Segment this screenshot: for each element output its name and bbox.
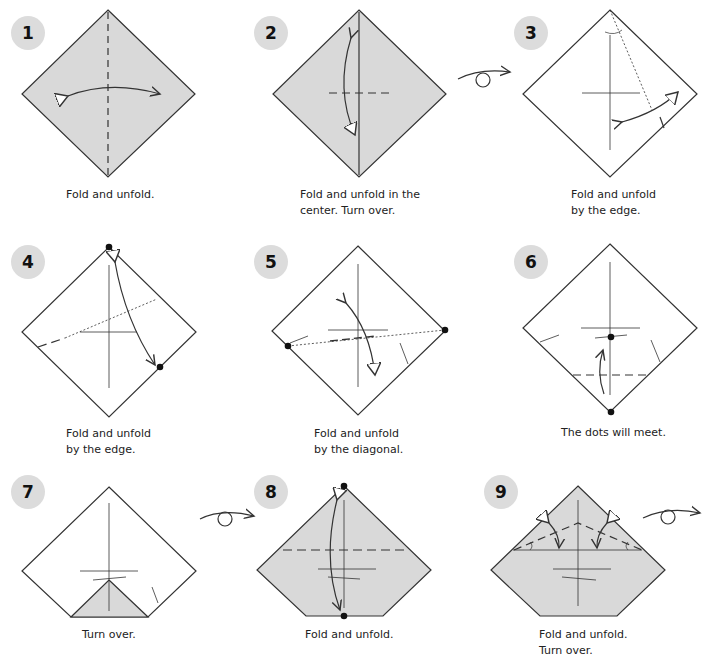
step-1-diagram	[22, 10, 195, 177]
step-4-diagram	[22, 244, 196, 417]
step-caption: Fold and unfold by the edge.	[571, 187, 656, 219]
step-caption: Fold and unfold. Turn over.	[539, 627, 627, 659]
step-caption: Fold and unfold in the center. Turn over…	[300, 187, 420, 219]
step-number-badge: 1	[11, 16, 45, 50]
step-6-diagram	[523, 244, 697, 415]
step-9-diagram	[491, 486, 665, 616]
step-2-diagram	[273, 10, 446, 177]
step-caption: Turn over.	[82, 627, 136, 643]
step-5-diagram	[272, 246, 448, 415]
step-number-badge: 5	[254, 245, 288, 279]
turn-over-icon	[643, 510, 700, 524]
step-caption: Fold and unfold by the edge.	[66, 426, 151, 458]
step-number-badge: 3	[514, 16, 548, 50]
step-3-diagram	[523, 10, 697, 177]
step-caption: Fold and unfold by the diagonal.	[314, 426, 403, 458]
step-number-badge: 2	[254, 16, 288, 50]
step-number-badge: 8	[254, 475, 288, 509]
step-caption: Fold and unfold.	[305, 627, 393, 643]
turn-over-icon	[200, 512, 254, 526]
step-number-badge: 4	[11, 245, 45, 279]
step-7-diagram	[22, 487, 196, 617]
step-number-badge: 7	[11, 475, 45, 509]
step-number-badge: 6	[514, 245, 548, 279]
step-caption: Fold and unfold.	[66, 187, 154, 203]
step-caption: The dots will meet.	[561, 425, 666, 441]
turn-over-icon	[458, 71, 510, 87]
origami-diagram-canvas	[0, 0, 708, 662]
step-number-badge: 9	[484, 475, 518, 509]
